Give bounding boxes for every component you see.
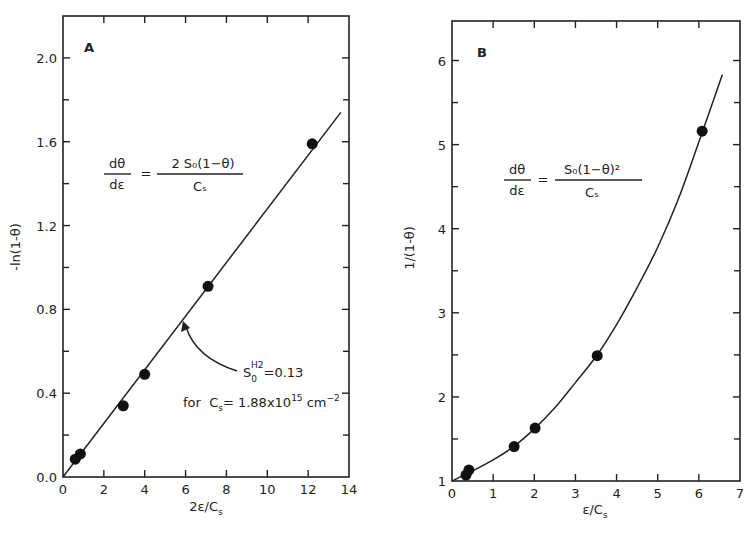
x-tick-label: 5: [654, 486, 662, 501]
panel-b-frame: [452, 21, 740, 481]
y-tick-label: 0.8: [36, 302, 57, 317]
y-tick-label: 1.6: [36, 135, 57, 150]
panel-a-eq-lhs-den: dε: [109, 177, 124, 192]
y-tick-label: 0.4: [36, 386, 57, 401]
y-tick-label: 4: [438, 222, 446, 237]
x-tick-label: 10: [259, 482, 276, 497]
x-tick-label: 0: [448, 486, 456, 501]
x-tick-label: 2: [100, 482, 108, 497]
panel-b-y-axis-label: 1/(1-θ): [402, 226, 417, 270]
panel-b-points: [460, 126, 707, 481]
panel-a-eq-rhs-num: 2 S₀(1−θ): [171, 156, 234, 171]
panel-a-eq-rhs-den: Cₛ: [193, 179, 207, 194]
panel-a-y-axis-label: -ln(1-θ): [8, 223, 23, 271]
annotation-arrowhead: [181, 321, 190, 332]
annotation-arrow: [186, 327, 237, 371]
x-tick-label: 12: [300, 482, 317, 497]
panel-b: 01234567 123456 B 1/(1-θ) ε/Cs dθ dε = S…: [402, 21, 744, 520]
x-tick-label: 14: [341, 482, 358, 497]
x-tick-label: 1: [489, 486, 497, 501]
annotation-value: =0.13: [264, 365, 304, 380]
x-tick-label: 6: [695, 486, 703, 501]
panel-a: 02468101214 0.00.40.81.21.62.0 A -ln(1-θ…: [8, 16, 357, 517]
panel-a-eq-equals: =: [141, 166, 152, 181]
panel-b-eq-equals: =: [538, 172, 549, 187]
y-tick-label: 0.0: [36, 470, 57, 485]
panel-b-x-axis-label-main: ε/C: [582, 502, 602, 517]
data-point: [530, 423, 541, 434]
panel-b-x-axis-label: ε/Cs: [582, 502, 607, 520]
panel-a-equation: dθ dε = 2 S₀(1−θ) Cₛ: [104, 156, 243, 194]
panel-b-y-ticks: 123456: [438, 54, 740, 489]
y-tick-label: 2.0: [36, 51, 57, 66]
panel-b-x-axis-label-sub: s: [603, 510, 608, 520]
data-point: [75, 448, 86, 459]
data-point: [307, 138, 318, 149]
data-point: [139, 369, 150, 380]
annotation-mantissa: = 1.88x10: [223, 395, 291, 410]
x-tick-label: 4: [612, 486, 620, 501]
x-tick-label: 3: [571, 486, 579, 501]
panel-b-eq-lhs-num: dθ: [509, 162, 525, 177]
y-tick-label: 3: [438, 306, 446, 321]
panel-b-eq-rhs-den: Cₛ: [585, 185, 599, 200]
y-tick-label: 1.2: [36, 219, 57, 234]
figure: 02468101214 0.00.40.81.21.62.0 A -ln(1-θ…: [0, 0, 754, 536]
x-tick-label: 8: [222, 482, 230, 497]
data-point: [463, 465, 474, 476]
x-tick-label: 2: [530, 486, 538, 501]
annotation-unit: cm: [303, 395, 327, 410]
panel-a-x-axis-label-sub: s: [218, 507, 223, 517]
panel-b-eq-rhs-num: S₀(1−θ)²: [564, 162, 620, 177]
annotation-sticking-coefficient: S0H2=0.13: [243, 360, 303, 384]
panel-a-eq-lhs-num: dθ: [109, 156, 125, 171]
x-tick-label: 0: [59, 482, 67, 497]
annotation-s-sup: H2: [251, 360, 264, 370]
y-tick-label: 1: [438, 474, 446, 489]
annotation-exponent: 15: [291, 393, 302, 403]
data-point: [118, 400, 129, 411]
panel-a-label: A: [84, 40, 94, 55]
y-tick-label: 2: [438, 390, 446, 405]
y-tick-label: 5: [438, 138, 446, 153]
panel-a-y-ticks: 0.00.40.81.21.62.0: [36, 51, 349, 485]
annotation-s-sub: 0: [251, 374, 257, 384]
panel-b-x-ticks: 01234567: [448, 21, 744, 501]
x-tick-label: 6: [181, 482, 189, 497]
annotation-unit-exp: −2: [327, 393, 340, 403]
data-point: [592, 350, 603, 361]
panel-a-annotation: S0H2=0.13 for Cs= 1.88x1015 cm−2: [181, 321, 340, 413]
data-point: [203, 281, 214, 292]
x-tick-label: 7: [736, 486, 744, 501]
x-tick-label: 4: [141, 482, 149, 497]
panel-a-x-axis-label-main: 2ε/C: [189, 499, 218, 514]
annotation-surface-density: for Cs= 1.88x1015 cm−2: [183, 393, 340, 413]
panel-b-equation: dθ dε = S₀(1−θ)² Cₛ: [504, 162, 642, 200]
panel-b-eq-lhs-den: dε: [509, 183, 524, 198]
data-point: [509, 441, 520, 452]
data-point: [697, 126, 708, 137]
annotation-for-c: for C: [183, 395, 218, 410]
panel-a-x-axis-label: 2ε/Cs: [189, 499, 223, 517]
panel-b-fit-curve: [452, 75, 722, 481]
panel-b-label: B: [477, 45, 487, 60]
y-tick-label: 6: [438, 54, 446, 69]
